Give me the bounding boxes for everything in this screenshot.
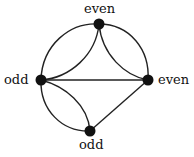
- node-top: [94, 19, 105, 30]
- edge-top-left-inner: [41, 24, 99, 80]
- node-bottom: [85, 126, 96, 137]
- node-left: [36, 75, 47, 86]
- edge-top-left-outer: [41, 24, 99, 80]
- node-label-left: odd: [4, 73, 28, 86]
- node-label-bottom: odd: [79, 138, 103, 151]
- node-right: [143, 75, 154, 86]
- edge-top-right-inner: [99, 24, 148, 80]
- edge-left-bottom-inner: [41, 80, 90, 131]
- node-label-right: even: [158, 73, 189, 86]
- edge-right-bottom: [90, 80, 148, 131]
- graph-diagram: even odd even odd: [0, 0, 194, 157]
- edge-left-bottom-outer: [41, 80, 90, 131]
- edge-top-right-outer: [99, 24, 148, 80]
- node-label-top: even: [84, 2, 115, 15]
